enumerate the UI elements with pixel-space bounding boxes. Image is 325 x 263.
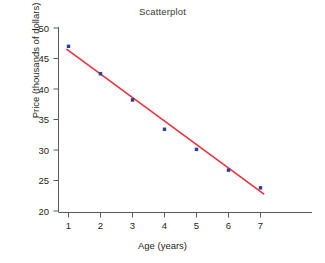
plot-area: 50 45 40 35 30 25 20 1 2 3 4 5 6 7 bbox=[0, 0, 325, 263]
x-tick-label: 5 bbox=[194, 220, 199, 231]
data-point bbox=[259, 186, 262, 189]
x-axis-ticks bbox=[69, 213, 261, 218]
x-tick-label: 7 bbox=[258, 220, 263, 231]
y-axis-ticks bbox=[54, 28, 59, 211]
x-axis-label: Age (years) bbox=[55, 240, 270, 251]
x-tick-label: 6 bbox=[226, 220, 231, 231]
x-tick-label: 2 bbox=[98, 220, 103, 231]
x-tick-label: 1 bbox=[66, 220, 71, 231]
x-tick-label: 4 bbox=[162, 220, 167, 231]
y-tick-label: 20 bbox=[38, 206, 49, 217]
y-axis-label: Price (thousands of dollars) bbox=[30, 0, 41, 151]
x-tick-labels: 1 2 3 4 5 6 7 bbox=[66, 220, 263, 231]
data-point-group bbox=[67, 45, 262, 190]
data-point bbox=[131, 98, 134, 101]
data-point bbox=[195, 148, 198, 151]
trend-line bbox=[67, 49, 264, 194]
data-point bbox=[163, 128, 166, 131]
data-point bbox=[227, 168, 230, 171]
x-tick-label: 3 bbox=[130, 220, 135, 231]
data-point bbox=[99, 72, 102, 75]
y-tick-label: 25 bbox=[38, 175, 49, 186]
scatterplot-figure: Scatterplot 50 45 40 35 30 25 20 bbox=[0, 0, 325, 263]
data-point bbox=[67, 45, 70, 48]
